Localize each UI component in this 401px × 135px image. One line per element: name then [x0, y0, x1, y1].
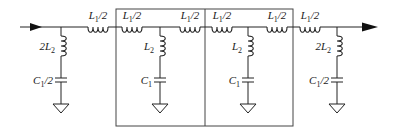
ground-icon — [329, 104, 345, 113]
circuit-diagram: L1/2L1/2L1/2L1/2L1/2L1/22L2C1/2L2C1L2C12… — [0, 0, 401, 135]
series-inductor — [180, 27, 200, 32]
series-inductor-label: L1/2 — [88, 9, 108, 24]
ground-icon — [53, 104, 69, 113]
shunt-inductor — [160, 36, 165, 56]
ground-icon — [152, 104, 168, 113]
shunt-capacitor-label: C1 — [141, 74, 152, 89]
series-inductor-label: L1/2 — [180, 9, 200, 24]
series-inductor — [267, 27, 287, 32]
series-inductor-label: L1/2 — [267, 9, 287, 24]
shunt-inductor — [61, 36, 66, 56]
shunt-inductor — [248, 36, 253, 56]
series-inductor — [122, 27, 142, 32]
circuit-schematic: L1/2L1/2L1/2L1/2L1/2L1/22L2C1/2L2C1L2C12… — [0, 0, 401, 135]
shunt-inductor-label: 2L2 — [39, 40, 55, 55]
shunt-capacitor-label: C1/2 — [309, 74, 329, 89]
series-inductor-label: L1/2 — [212, 9, 232, 24]
series-inductor — [212, 27, 232, 32]
series-inductor — [88, 27, 108, 32]
shunt-inductor — [337, 36, 342, 56]
series-inductor — [300, 27, 320, 32]
shunt-inductor-label: L2 — [143, 40, 154, 55]
ground-icon — [240, 104, 256, 113]
shunt-inductor-label: 2L2 — [315, 40, 331, 55]
shunt-capacitor-label: C1/2 — [33, 74, 53, 89]
series-inductor-label: L1/2 — [122, 9, 142, 24]
series-inductor-label: L1/2 — [300, 9, 320, 24]
input-arrow-icon — [30, 23, 42, 31]
output-arrow-icon — [362, 23, 378, 32]
shunt-inductor-label: L2 — [231, 40, 242, 55]
shunt-capacitor-label: C1 — [229, 74, 240, 89]
